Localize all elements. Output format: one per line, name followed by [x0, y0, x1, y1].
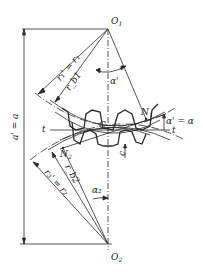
dim-arrow-bottom [23, 238, 26, 244]
dim-arrow-top [23, 29, 26, 35]
angle-alpha2-arrow [103, 196, 108, 200]
label-alpha2: α₂ [92, 185, 102, 195]
label-N2: N2 [59, 149, 72, 160]
label-O1: O1 [111, 16, 122, 27]
label-center-distance: a' = a [10, 114, 20, 140]
line-of-action [60, 114, 166, 149]
line-O1-N1 [108, 29, 146, 119]
label-clearance: c [117, 151, 127, 156]
rb1-arrow [55, 96, 60, 102]
point-N1 [145, 118, 147, 120]
label-t-left: t [42, 124, 46, 134]
label-O2: O2 [111, 252, 122, 263]
point-C [107, 127, 109, 129]
label-C: C [99, 120, 106, 130]
label-N1: N1 [140, 107, 153, 118]
label-alpha-eq: α' = α [166, 116, 194, 126]
r2-arrow [33, 162, 39, 167]
angle-alpha-prime-arrow [96, 68, 100, 73]
gear-mesh-diagram: O1 O2 C N1 N2 t t c α' α' = α α₂ r₁' = r… [0, 0, 203, 272]
clearance-arrow [124, 144, 127, 148]
label-alpha-prime: α' [110, 76, 119, 86]
label-t-right: t [172, 125, 176, 135]
